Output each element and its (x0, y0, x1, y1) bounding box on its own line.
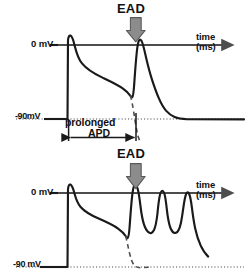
top-minus90-mv-label: -90mV (15, 112, 40, 121)
top-time-axis-units: (ms) (196, 42, 216, 52)
prolonged-apd-label-line2: APD (88, 128, 110, 139)
top-action-potential-trace (68, 36, 245, 120)
top-ead-arrow-icon (126, 18, 145, 42)
ead-figure: 0 mV -90mV time (ms) EAD prolonged APD 0… (0, 0, 250, 279)
bottom-action-potential-trace (68, 185, 209, 267)
bottom-zero-mv-label: 0 mV (31, 187, 53, 197)
bottom-ead-label: EAD (117, 147, 145, 161)
top-zero-mv-label: 0 mV (31, 39, 53, 49)
bottom-time-axis-units: (ms) (196, 190, 216, 200)
top-normal-repolarization-dashed (130, 95, 140, 140)
bottom-minus90-mv-label: -90 mV (13, 260, 41, 269)
bottom-normal-repolarization-dashed (126, 236, 152, 268)
bottom-ead-arrow-icon (126, 164, 145, 189)
top-ead-label: EAD (117, 2, 145, 16)
